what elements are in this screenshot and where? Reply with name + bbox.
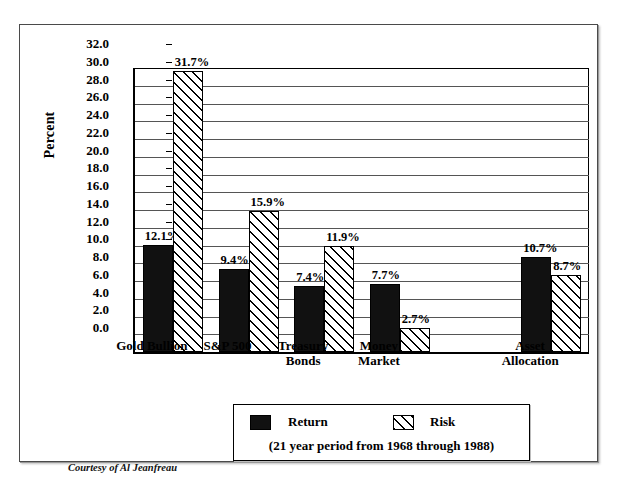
chart-page: Percent 32.030.028.026.024.022.020.018.0… <box>0 0 617 482</box>
gridline <box>135 246 589 247</box>
bar-value-label: 10.7% <box>523 242 557 255</box>
gridline <box>135 228 589 229</box>
legend-swatch-risk <box>393 415 414 430</box>
y-tick-label: 2.0 <box>59 303 109 317</box>
y-tick-label: 4.0 <box>59 286 109 300</box>
bar-value-label: 7.7% <box>372 269 400 282</box>
x-category-label: Asset Allocation <box>480 338 580 368</box>
y-tick-label: 6.0 <box>59 268 109 282</box>
legend-label-return: Return <box>288 414 328 430</box>
y-tick-label: 22.0 <box>59 126 109 140</box>
y-tick-label: 26.0 <box>59 90 109 104</box>
bar-value-label: 11.9% <box>326 231 360 244</box>
bar-risk <box>249 211 279 352</box>
y-tick-mark <box>166 44 172 45</box>
y-tick-label: 28.0 <box>59 73 109 87</box>
legend-swatch-return <box>250 415 271 430</box>
y-tick-label: 10.0 <box>59 232 109 246</box>
chart-frame: Percent 32.030.028.026.024.022.020.018.0… <box>19 24 598 462</box>
y-tick-label: 30.0 <box>59 55 109 69</box>
legend: Return Risk (21 year period from 1968 th… <box>233 404 530 461</box>
y-tick-label: 20.0 <box>59 144 109 158</box>
y-tick-label: 12.0 <box>59 215 109 229</box>
gridline <box>135 104 589 105</box>
bar-value-label: 15.9% <box>251 196 285 209</box>
bar-value-label: 2.7% <box>402 313 430 326</box>
gridline <box>135 86 589 87</box>
bar-value-label: 31.7% <box>175 56 209 69</box>
legend-label-risk: Risk <box>430 414 455 430</box>
legend-caption: (21 year period from 1968 through 1988) <box>234 438 529 454</box>
gridline <box>135 139 589 140</box>
y-tick-mark <box>166 62 172 63</box>
bar-value-label: 8.7% <box>553 260 581 273</box>
gridline <box>135 121 589 122</box>
bar-value-label: 7.4% <box>296 271 324 284</box>
plot-area: 12.1%31.7%9.4%15.9%7.4%11.9%7.7%2.7%10.7… <box>133 68 589 354</box>
bar-value-label: 9.4% <box>221 254 249 267</box>
gridline <box>135 157 589 158</box>
bar-risk <box>324 246 354 352</box>
gridline <box>135 192 589 193</box>
y-tick-label: 8.0 <box>59 250 109 264</box>
y-tick-label: 0.0 <box>59 321 109 335</box>
gridline <box>135 175 589 176</box>
y-tick-label: 32.0 <box>59 37 109 51</box>
y-tick-label: 24.0 <box>59 108 109 122</box>
bar-risk <box>173 71 203 352</box>
y-axis-tick-labels: 32.030.028.026.024.022.020.018.016.014.0… <box>59 44 109 328</box>
legend-entries: Return Risk <box>234 412 529 434</box>
x-category-label: Money Market <box>329 338 429 368</box>
gridline <box>135 210 589 211</box>
y-tick-label: 16.0 <box>59 179 109 193</box>
courtesy-credit: Courtesy of Al Jeanfreau <box>68 462 177 473</box>
bar-return <box>143 245 173 352</box>
y-tick-label: 18.0 <box>59 161 109 175</box>
y-tick-label: 14.0 <box>59 197 109 211</box>
